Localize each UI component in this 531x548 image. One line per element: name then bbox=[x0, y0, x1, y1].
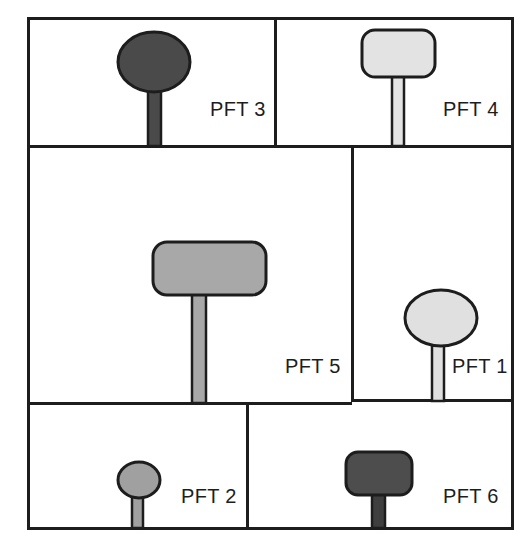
panel-grid-lines bbox=[28, 18, 512, 528]
pft2-crown bbox=[118, 462, 160, 498]
panel-label-pft3: PFT 3 bbox=[210, 98, 266, 121]
pft4-tree-glyph bbox=[362, 30, 435, 146]
pft5-crown bbox=[153, 242, 266, 295]
panel-label-pft1: PFT 1 bbox=[452, 355, 508, 378]
pft2-tree-glyph bbox=[118, 462, 160, 528]
panel-label-pft5: PFT 5 bbox=[285, 355, 341, 378]
pft3-crown bbox=[118, 32, 190, 92]
pft5-tree-glyph bbox=[153, 242, 266, 403]
pft4-crown bbox=[362, 30, 435, 77]
pft1-crown bbox=[405, 290, 477, 346]
pft3-tree-glyph bbox=[118, 32, 190, 146]
panel-label-pft6: PFT 6 bbox=[443, 485, 499, 508]
pft6-crown bbox=[346, 452, 412, 495]
pft-diagram-canvas bbox=[0, 0, 531, 548]
pft4-trunk bbox=[392, 70, 404, 146]
pft5-trunk bbox=[192, 288, 206, 403]
pft1-tree-glyph bbox=[405, 290, 477, 401]
panel-label-pft2: PFT 2 bbox=[181, 485, 237, 508]
outer-border bbox=[28, 18, 512, 528]
pft3-trunk bbox=[148, 85, 161, 146]
pft6-tree-glyph bbox=[346, 452, 412, 528]
panel-label-pft4: PFT 4 bbox=[443, 98, 499, 121]
pft-schematic-figure: PFT 3 PFT 4 PFT 5 PFT 1 PFT 2 PFT 6 bbox=[0, 0, 531, 548]
